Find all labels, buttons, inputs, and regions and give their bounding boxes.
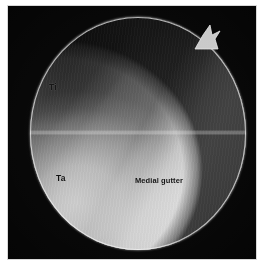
annotation-label-ta: Ta [56,174,66,183]
scope-vignette [30,17,246,250]
arthroscope-circular-field [30,17,246,250]
annotation-label-medial-gutter: Medial gutter [135,177,183,185]
figure-root: Ti Ta Medial gutter [0,0,267,271]
photograph-frame: Ti Ta Medial gutter [7,5,257,260]
annotation-label-ti: Ti [49,83,57,92]
